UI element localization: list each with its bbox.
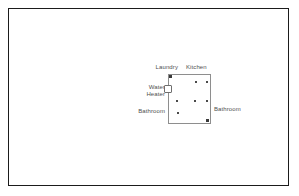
room-label-bathroom-right: Bathroom bbox=[214, 106, 252, 113]
plan-walls bbox=[168, 74, 211, 124]
room-label-bathroom-left: Bathroom bbox=[130, 108, 165, 115]
fixture-se-corner bbox=[206, 119, 209, 122]
room-label-kitchen: Kitchen bbox=[186, 64, 218, 71]
fixture-w-upper bbox=[176, 100, 178, 102]
water-heater-label-line-1: Water bbox=[139, 84, 165, 91]
fixture-n-mid bbox=[195, 81, 197, 83]
water-heater-label-line-2: Heater bbox=[139, 91, 165, 98]
fixture-c-mid bbox=[194, 100, 196, 102]
floor-plan-figure: Laundry Kitchen Water Heater Bathroom Ba… bbox=[0, 0, 299, 196]
fixture-nw-corner bbox=[169, 75, 172, 78]
water-heater-icon bbox=[164, 85, 172, 93]
equipment-label-water-heater: Water Heater bbox=[139, 84, 165, 98]
fixture-e-mid bbox=[206, 100, 208, 102]
floor-plan-outline bbox=[168, 74, 211, 124]
room-label-laundry: Laundry bbox=[144, 64, 178, 71]
fixture-ne bbox=[206, 81, 208, 83]
fixture-w-lower bbox=[177, 112, 179, 114]
